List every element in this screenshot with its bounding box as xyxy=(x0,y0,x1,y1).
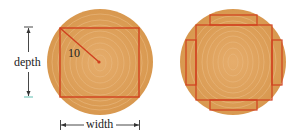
arrow-right-icon xyxy=(134,123,139,127)
width-label: width xyxy=(86,117,113,132)
right-log xyxy=(180,9,286,115)
arrow-left-icon xyxy=(61,123,66,127)
left-log xyxy=(47,9,153,115)
diagram-canvas xyxy=(0,0,306,140)
depth-label: depth xyxy=(14,55,41,70)
radius-label: 10 xyxy=(68,46,80,61)
arrow-down-icon xyxy=(27,91,31,96)
center-point xyxy=(97,60,100,63)
arrow-up-icon xyxy=(27,28,31,33)
